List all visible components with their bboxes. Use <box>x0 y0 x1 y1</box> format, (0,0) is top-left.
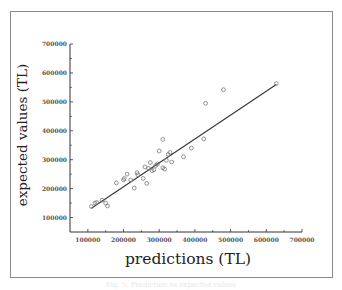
data-point <box>170 160 174 164</box>
y-tick-label: 200000 <box>42 185 67 192</box>
y-tick-label: 100000 <box>42 214 67 221</box>
y-tick-label: 300000 <box>42 156 67 163</box>
data-point <box>145 182 149 186</box>
y-tick-label: 500000 <box>42 98 67 105</box>
scatter-chart: 1000002000003000004000005000006000007000… <box>0 0 342 290</box>
y-axis-label: expected values (TL) <box>14 64 30 207</box>
data-point <box>125 172 129 176</box>
data-points <box>90 82 279 209</box>
x-tick-label: 700000 <box>289 236 314 243</box>
y-tick-label: 700000 <box>42 40 67 47</box>
data-point <box>157 149 161 153</box>
data-point <box>182 155 186 159</box>
x-tick-label: 200000 <box>111 236 136 243</box>
x-tick-label: 400000 <box>182 236 207 243</box>
data-point <box>202 137 206 141</box>
x-tick-label: 300000 <box>147 236 172 243</box>
data-point <box>141 177 145 181</box>
data-point <box>106 204 110 208</box>
x-tick-label: 100000 <box>75 236 100 243</box>
x-axis-label: predictions (TL) <box>125 250 251 268</box>
figure-caption: Fig. 5. Prediction vs expected values <box>0 281 342 289</box>
y-tick-label: 400000 <box>42 127 67 134</box>
data-point <box>129 178 133 182</box>
axes: 1000002000003000004000005000006000007000… <box>42 40 315 243</box>
fit-line <box>91 84 276 208</box>
data-point <box>222 88 226 92</box>
x-tick-label: 600000 <box>254 236 279 243</box>
data-point <box>189 146 193 150</box>
data-point <box>204 101 208 105</box>
data-point <box>161 138 165 142</box>
y-tick-label: 600000 <box>42 69 67 76</box>
data-point <box>164 158 168 162</box>
data-point <box>148 161 152 165</box>
x-tick-label: 500000 <box>218 236 243 243</box>
data-point <box>132 186 136 190</box>
data-point <box>115 181 119 185</box>
